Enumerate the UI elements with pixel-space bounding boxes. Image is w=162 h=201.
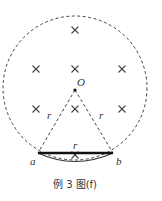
radius-line-oa: [38, 90, 75, 153]
field-cross-icon: [119, 66, 126, 73]
label-point-a: a: [30, 155, 36, 167]
center-point-o: [73, 88, 76, 91]
field-cross-icon: [72, 106, 79, 113]
label-point-b: b: [116, 155, 122, 167]
label-radius-right: r: [99, 109, 104, 121]
field-cross-icon: [72, 66, 79, 73]
field-cross-icon: [33, 66, 40, 73]
label-center-o: O: [77, 76, 85, 88]
field-cross-icon: [72, 27, 79, 34]
field-cross-icon: [33, 106, 40, 113]
radius-line-ob: [75, 90, 113, 153]
label-radius-left: r: [47, 109, 52, 121]
field-cross-icon: [119, 106, 126, 113]
label-chord-r: r: [73, 139, 78, 151]
figure-caption: 例 3 图(f): [53, 178, 97, 190]
circular-field-diagram: O r r r a b 例 3 图(f): [0, 0, 162, 201]
